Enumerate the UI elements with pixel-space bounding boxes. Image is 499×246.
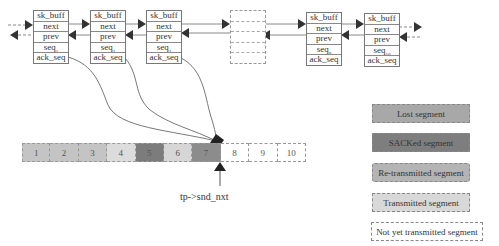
node-seq-field: seq3 [147,43,181,54]
node-seq-field: seq10 [365,46,399,57]
node-ack-seq-field: ack_seq [91,53,125,63]
node-ack-seq-field [231,53,265,63]
skbuff-node-10: sk_buff next prev seq10 ack_seq [364,13,400,67]
legend-lost-segment: Lost segment [372,104,470,123]
node-seq-field: seq2 [91,43,125,54]
snd-nxt-pointer [214,162,226,186]
skbuff-node-ellipsis [230,10,266,64]
node-title: sk_buff [307,13,341,24]
segment-1: 1 [22,143,50,162]
segment-6: 6 [164,143,192,162]
node-title: sk_buff [147,11,181,22]
segment-5: 5 [136,143,164,162]
node-next-field: next [365,25,399,36]
node-title: sk_buff [34,11,68,22]
legend-retransmitted-segment: Re-transmitted segment [372,163,470,182]
node-next-field: next [34,22,68,33]
arrowheads [10,19,422,42]
segment-2: 2 [50,143,78,162]
node-prev-field: prev [34,32,68,43]
segment-10: 10 [278,143,306,162]
skbuff-node-1: sk_buff next prev seq1 ack_seq [33,10,69,64]
node-prev-field: prev [365,35,399,46]
segment-7: 7 [192,143,220,162]
node-title [231,11,265,22]
node-prev-field [231,32,265,43]
node-prev-field: prev [91,32,125,43]
segment-4: 4 [107,143,135,162]
node-next-field [231,22,265,33]
node-seq-field: seq1 [34,43,68,54]
skbuff-node-3: sk_buff next prev seq3 ack_seq [146,10,182,64]
skbuff-node-9: sk_buff next prev seq9 ack_seq [306,12,342,66]
legend-sacked-segment: SACKed segment [372,133,470,152]
node-prev-field: prev [147,32,181,43]
legend-not-yet-transmitted-segment: Not yet transmitted segment [371,222,483,241]
segment-sequence-bar: 1 2 3 4 5 6 7 8 9 10 [22,143,306,162]
node-title: sk_buff [91,11,125,22]
node-next-field: next [307,24,341,35]
skbuff-node-2: sk_buff next prev seq2 ack_seq [90,10,126,64]
snd-nxt-label: tp->snd_nxt [180,191,228,202]
node-ack-seq-field: ack_seq [365,56,399,66]
node-ack-seq-field: ack_seq [307,55,341,65]
node-next-field: next [147,22,181,33]
segment-3: 3 [79,143,107,162]
legend-transmitted-segment: Transmitted segment [372,193,470,212]
node-ack-seq-field: ack_seq [34,53,68,63]
node-next-field: next [91,22,125,33]
segment-9: 9 [249,143,277,162]
segment-8: 8 [221,143,249,162]
node-ack-seq-field: ack_seq [147,53,181,63]
ack-seq-curves [68,57,217,141]
node-seq-field: seq9 [307,45,341,56]
node-title: sk_buff [365,14,399,25]
node-seq-field [231,43,265,54]
node-prev-field: prev [307,34,341,45]
